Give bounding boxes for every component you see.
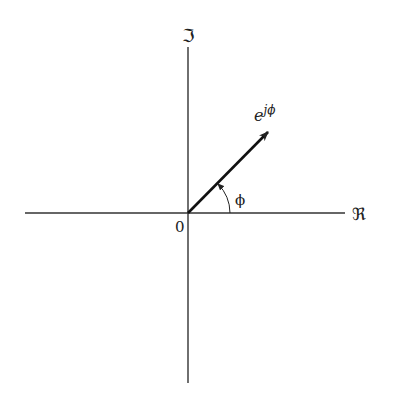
complex-plane-diagram: ℑ ℜ 0 ϕ ejϕ [0,0,410,400]
vector-label-exponent: jϕ [260,103,275,117]
angle-label: ϕ [235,191,245,209]
real-axis-label: ℜ [352,204,366,224]
origin-label: 0 [175,218,185,236]
vector-label-base: e [254,106,263,125]
imaginary-axis-label: ℑ [182,25,195,46]
vector-label: ejϕ [254,103,275,125]
angle-arc [218,184,230,213]
